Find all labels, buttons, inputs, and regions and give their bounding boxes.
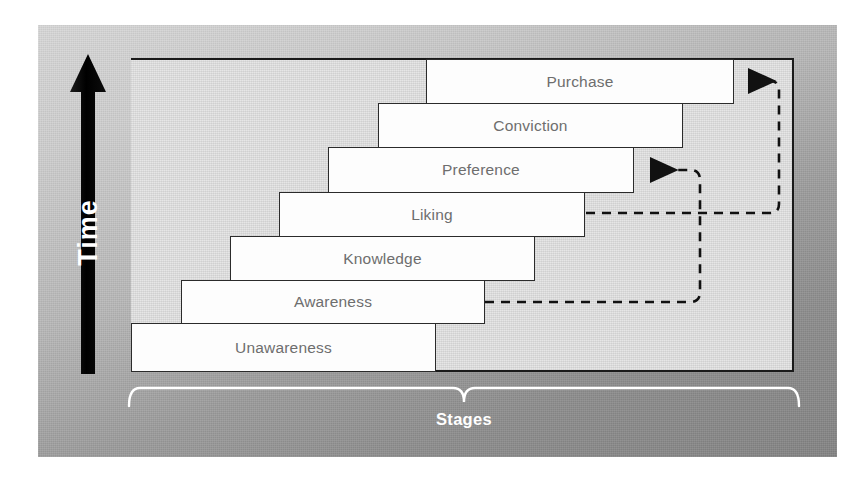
step-label-unawareness: Unawareness	[235, 339, 332, 357]
step-label-liking: Liking	[411, 206, 453, 224]
step-purchase[interactable]: Purchase	[426, 59, 734, 104]
step-liking[interactable]: Liking	[279, 192, 585, 237]
stages-label: Stages	[126, 410, 802, 429]
diagram-root: Unawareness Awareness Knowledge Liking P…	[0, 0, 867, 487]
step-label-awareness: Awareness	[294, 293, 372, 311]
time-axis-arrow	[68, 52, 108, 376]
step-label-conviction: Conviction	[493, 117, 567, 135]
step-unawareness[interactable]: Unawareness	[131, 323, 436, 372]
step-label-purchase: Purchase	[546, 73, 613, 91]
step-preference[interactable]: Preference	[328, 147, 634, 193]
step-awareness[interactable]: Awareness	[181, 280, 485, 324]
stages-brace	[126, 382, 802, 408]
step-label-preference: Preference	[442, 161, 520, 179]
step-label-knowledge: Knowledge	[343, 250, 422, 268]
step-knowledge[interactable]: Knowledge	[230, 236, 535, 281]
step-conviction[interactable]: Conviction	[378, 103, 683, 148]
